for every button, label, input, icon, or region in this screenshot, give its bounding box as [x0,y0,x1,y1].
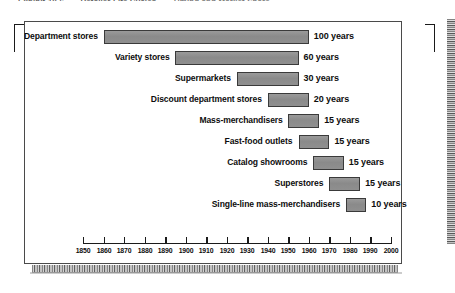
axis-tick-label: 1880 [137,246,152,255]
bar-row: Single-line mass-merchandisers10 years [25,196,401,217]
axis-tick-label: 1980 [343,246,358,255]
axis-tick [83,237,84,244]
axis-tick [104,237,105,244]
axis-tick [329,237,330,244]
bar-value-label: 30 years [304,73,339,83]
bar-row: Catalog showrooms15 years [25,154,401,175]
bar-value-label: 100 years [314,31,354,41]
bar-value-label: 15 years [349,157,384,167]
axis-tick [350,237,351,244]
bar [329,177,360,191]
corner-bracket-left [14,24,24,52]
bar [346,198,367,212]
bar-row: Fast-food outlets15 years [25,133,401,154]
exhibit-caption: Exhibit 18-6 Retailer Life Cycles Timing… [18,0,270,6]
axis-tick-label: 1870 [117,246,132,255]
panel-shadow [30,272,402,274]
bar-value-label: 15 years [365,178,400,188]
bar-row: Department stores100 years [25,28,401,49]
axis-tick-label: 1990 [363,246,378,255]
bar-rows: Department stores100 yearsVariety stores… [25,28,401,217]
axis-tick [165,237,166,244]
bar-category-label: Fast-food outlets [225,136,293,146]
bar-row: Supermarkets30 years [25,70,401,91]
bar [104,30,309,44]
chart-panel: Department stores100 yearsVariety stores… [24,21,402,264]
axis-tick-label: 1890 [158,246,173,255]
axis-tick-label: 1960 [302,246,317,255]
axis-tick [186,237,187,244]
axis-tick [370,237,371,244]
bar-category-label: Single-line mass-merchandisers [212,199,340,209]
bar [268,93,309,107]
bar-row: Superstores15 years [25,175,401,196]
axis-tick [268,237,269,244]
bar-row: Variety stores60 years [25,49,401,70]
bar [237,72,299,86]
axis-tick [288,237,289,244]
axis-tick-label: 1920 [219,246,234,255]
bar-value-label: 15 years [334,136,369,146]
axis-tick [206,237,207,244]
axis-tick [309,237,310,244]
bar-value-label: 60 years [304,52,339,62]
bar-row: Discount department stores20 years [25,91,401,112]
x-axis: 1850186018701880189019001910192019301940… [25,235,401,261]
axis-tick-label: 2000 [384,246,399,255]
bar-value-label: 15 years [324,115,359,125]
axis-tick-label: 1930 [240,246,255,255]
bar-category-label: Mass-merchandisers [199,115,282,125]
bar-category-label: Department stores [24,31,98,41]
axis-tick-label: 1950 [281,246,296,255]
bar-category-label: Variety stores [115,52,170,62]
axis-tick [391,237,392,244]
bar-category-label: Catalog showrooms [227,157,307,167]
bar-value-label: 10 years [371,199,406,209]
axis-tick [124,237,125,244]
exhibit-subtitle: Timing and Market Share [173,0,270,6]
corner-bracket-right [425,24,435,52]
bar-row: Mass-merchandisers15 years [25,112,401,133]
axis-tick-label: 1850 [76,246,91,255]
scan-noise-right [447,19,455,244]
exhibit-title: Retailer Life Cycles [80,0,156,6]
bar-category-label: Discount department stores [151,94,262,104]
exhibit-number: Exhibit 18-6 [18,0,64,6]
bar-category-label: Supermarkets [175,73,231,83]
axis-line [83,243,391,244]
bar [288,114,319,128]
axis-tick [145,237,146,244]
bar [299,135,330,149]
axis-tick-label: 1860 [96,246,111,255]
axis-tick-label: 1940 [260,246,275,255]
axis-tick-label: 1970 [322,246,337,255]
axis-tick [227,237,228,244]
bar-category-label: Superstores [275,178,324,188]
bar [175,51,298,65]
axis-tick-label: 1900 [178,246,193,255]
bar-value-label: 20 years [314,94,349,104]
axis-tick-label: 1910 [199,246,214,255]
bar [313,156,344,170]
axis-tick [247,237,248,244]
